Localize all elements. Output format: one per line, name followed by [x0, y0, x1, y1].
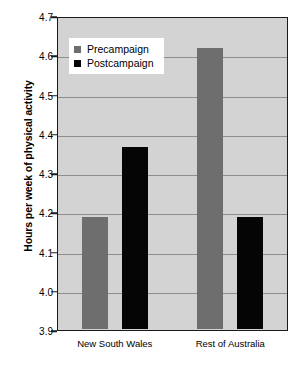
- y-tick-label: 4.6: [19, 51, 53, 62]
- gridline: [58, 97, 287, 98]
- y-tick-label: 4.7: [19, 12, 53, 23]
- legend-label: Precampaign: [87, 43, 149, 55]
- gridline: [58, 136, 287, 137]
- legend-item: Postcampaign: [74, 56, 154, 70]
- bar-precampaign-rest-of-australia: [197, 48, 223, 329]
- bar-postcampaign-rest-of-australia: [237, 217, 263, 329]
- bar-precampaign-new-south-wales: [82, 217, 108, 329]
- y-tick-mark: [51, 95, 57, 97]
- bar-chart-figure: Hours per week of physical activity 4.74…: [0, 0, 300, 365]
- y-tick-label: 4.3: [19, 169, 53, 180]
- y-tick-mark: [51, 134, 57, 136]
- y-tick-mark: [51, 252, 57, 254]
- y-tick-label: 4.5: [19, 90, 53, 101]
- y-tick-mark: [51, 173, 57, 175]
- legend-swatch-icon: [74, 60, 81, 67]
- y-tick-mark: [51, 213, 57, 215]
- gridline: [58, 175, 287, 176]
- y-tick-label: 4.2: [19, 208, 53, 219]
- legend-label: Postcampaign: [87, 57, 154, 69]
- y-tick-mark: [51, 16, 57, 18]
- y-tick-label: 4.1: [19, 247, 53, 258]
- y-tick-mark: [51, 291, 57, 293]
- x-tick-label: New South Wales: [77, 338, 152, 349]
- y-tick-mark: [51, 330, 57, 332]
- y-tick-label: 4.0: [19, 286, 53, 297]
- chart-legend: PrecampaignPostcampaign: [69, 38, 164, 74]
- bar-postcampaign-new-south-wales: [122, 147, 148, 330]
- y-tick-label: 4.4: [19, 129, 53, 140]
- legend-swatch-icon: [74, 46, 81, 53]
- y-tick-mark: [51, 56, 57, 58]
- gridline: [58, 214, 287, 215]
- y-tick-label: 3.9: [19, 326, 53, 337]
- legend-item: Precampaign: [74, 42, 154, 56]
- x-tick-label: Rest of Australia: [196, 338, 265, 349]
